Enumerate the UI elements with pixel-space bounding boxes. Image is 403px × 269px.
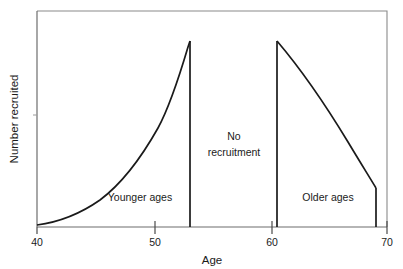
recruitment-chart: 40 50 60 70 Age Number recruited Younger… [0,0,403,269]
older-ages-curve [277,41,376,188]
x-tick-label-70: 70 [381,236,393,248]
chart-container: 40 50 60 70 Age Number recruited Younger… [0,0,403,269]
y-axis-title: Number recruited [8,75,20,164]
x-tick-label-60: 60 [266,236,278,248]
x-tick-label-50: 50 [149,236,161,248]
x-tick-label-40: 40 [31,236,43,248]
annotation-no-recruitment-line2: recruitment [208,146,261,158]
annotation-older-ages: Older ages [302,191,353,203]
x-axis-title: Age [202,254,222,266]
annotation-younger-ages: Younger ages [108,191,172,203]
annotation-no-recruitment-line1: No [227,130,241,142]
